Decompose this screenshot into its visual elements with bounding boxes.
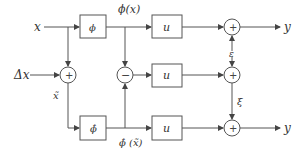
- phi-hat-block-label: ϕ̂: [90, 123, 97, 134]
- delta-x-input-label: Δx: [13, 68, 30, 82]
- diff-sign: −: [121, 69, 130, 82]
- u-middle-label: u: [163, 69, 170, 82]
- phi-block-label: ϕ: [89, 22, 96, 33]
- x-input-label: x: [34, 20, 41, 34]
- y-top-output-label: y: [283, 20, 291, 34]
- sum-top-sign: +: [229, 22, 237, 33]
- x-tilde-label: x̃: [53, 90, 59, 101]
- y-bottom-output-label: y: [283, 121, 291, 135]
- sum-input-sign: +: [65, 70, 73, 81]
- phi-x-signal-label: ϕ(x): [118, 3, 140, 16]
- phi-hat-xbar-signal-label: ϕ̂ (x̃): [119, 137, 143, 148]
- sum-bottom-sign: +: [229, 123, 237, 134]
- u-top-label: u: [163, 21, 170, 34]
- xi-label: ξ: [237, 96, 243, 107]
- x-tilde-line: [68, 83, 79, 128]
- epsilon-label: ε: [229, 49, 234, 59]
- block-diagram: x Δx x̃ ϕ ϕ̂ ϕ(x) ϕ̂ (x̃) u u u + − + + …: [0, 0, 304, 149]
- sum-middle-sign: +: [229, 70, 237, 81]
- u-bottom-label: u: [163, 122, 170, 135]
